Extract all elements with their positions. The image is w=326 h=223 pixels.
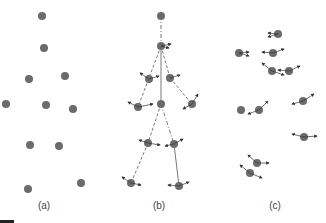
particle-dot <box>157 12 165 20</box>
particle-dot <box>77 179 85 187</box>
panel-b-label: (b) <box>153 200 165 211</box>
velocity-arrow-icon <box>259 101 268 110</box>
particle-dot <box>38 12 46 20</box>
edge-line <box>148 104 161 143</box>
edge-line <box>161 46 170 78</box>
particle-dot <box>26 141 34 149</box>
edge-line <box>161 104 174 144</box>
particle-dot <box>237 106 245 114</box>
panel-c-label: (c) <box>269 200 281 211</box>
panel-b <box>122 12 198 190</box>
panel-a <box>2 12 85 193</box>
particle-dot <box>157 100 165 108</box>
figure: (a) (b) (c) <box>0 0 326 223</box>
particle-dot <box>2 100 10 108</box>
particle-diagram: (a) (b) (c) <box>0 0 326 223</box>
particle-dot <box>42 101 50 109</box>
panel-c <box>235 30 317 178</box>
velocity-arrow-icon <box>262 63 272 71</box>
particle-dot <box>25 75 33 83</box>
velocity-arrow-icon <box>240 165 250 173</box>
particle-dot <box>61 72 69 80</box>
particle-dot <box>69 105 77 113</box>
edge-line <box>131 143 148 183</box>
particle-dot <box>55 142 63 150</box>
edge-line <box>170 78 192 104</box>
panel-a-label: (a) <box>38 200 50 211</box>
corner-bar <box>0 220 14 223</box>
velocity-arrow-icon <box>248 155 257 163</box>
particle-dot <box>24 185 32 193</box>
particle-dot <box>40 44 48 52</box>
edge-line <box>174 144 179 186</box>
